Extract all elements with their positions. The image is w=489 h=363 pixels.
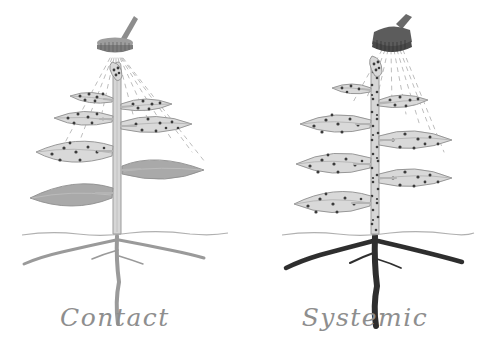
panel-systemic	[282, 14, 474, 326]
panel-contact	[22, 16, 228, 324]
stem-contact	[113, 62, 121, 234]
spray-nozzle-icon	[372, 14, 412, 52]
stem-systemic	[371, 62, 380, 234]
spray-nozzle-icon	[97, 16, 138, 53]
root-system-contact	[24, 236, 204, 324]
soil-line-contact	[22, 232, 228, 236]
pesticide-comparison-figure: Contact Systemic	[0, 0, 489, 363]
root-system-systemic	[286, 236, 462, 326]
illustration-canvas	[0, 0, 489, 363]
